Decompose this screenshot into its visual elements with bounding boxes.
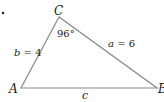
vertex-label-a: A: [8, 82, 18, 96]
side-b-label: b = 4: [14, 47, 42, 58]
triangle-diagram: C A B 96° b = 4 a = 6 c: [0, 0, 164, 102]
vertex-label-b: B: [157, 82, 164, 96]
side-a-label: a = 6: [108, 38, 135, 49]
vertex-label-c: C: [54, 4, 63, 18]
side-c-label: c: [82, 89, 88, 102]
bullet-dot: [2, 12, 4, 14]
angle-c-label: 96°: [57, 28, 75, 39]
